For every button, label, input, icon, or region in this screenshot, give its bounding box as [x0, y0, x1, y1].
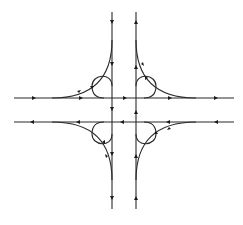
cloverleaf-interchange-diagram	[0, 0, 243, 225]
direction-arrows	[30, 20, 218, 200]
outer-ramp-northeast	[136, 40, 196, 98]
loop-ramp-southwest	[92, 122, 112, 144]
outer-ramp-southwest	[52, 122, 112, 180]
outer-ramp-southeast	[136, 122, 196, 180]
loop-ramp-northwest	[92, 76, 112, 98]
loop-ramp-northeast	[136, 76, 156, 98]
loop-ramp-southeast	[136, 122, 156, 144]
outer-ramp-northwest	[52, 40, 112, 98]
